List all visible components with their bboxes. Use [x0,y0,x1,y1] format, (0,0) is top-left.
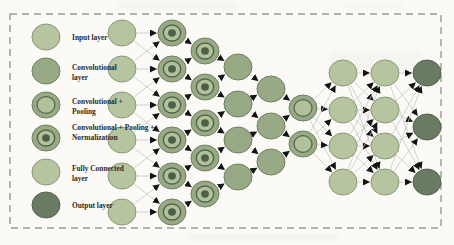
legend-label: layer [72,174,89,183]
connection-line [284,96,290,101]
layer-column-3-conv [224,54,252,190]
legend-label: Input layer [72,33,108,42]
layer-column-6-fc [329,60,357,195]
node-conv_pool_norm [158,127,186,153]
node-conv_pool [289,95,317,121]
normalization-core-icon [168,172,176,179]
node-body [413,114,441,140]
legend-glyph-input [32,24,60,50]
node-fc [329,97,357,123]
legend-item-input: Input layer [32,24,108,50]
node-body [329,97,357,123]
legend-label: Convolutional + [72,97,123,106]
node-conv_pool_norm [191,74,219,100]
node-body [257,76,285,102]
node-fc [371,169,399,195]
node-body [329,60,357,86]
legend-item-conv: Convolutionallayer [32,58,117,84]
layer-column-2-conv_pool_norm [191,38,219,207]
connection-line [314,82,331,99]
node-fc [371,60,399,86]
connection-line [284,133,290,137]
connection-line [185,76,192,81]
legend-glyph-conv_pool [32,92,60,118]
layer-column-1-conv_pool_norm [158,20,186,225]
node-body [329,169,357,195]
node-conv_pool [289,131,317,157]
node-body [224,54,252,80]
normalization-core-icon [201,47,209,54]
connection-line [185,58,192,63]
connection-line [218,165,225,170]
normalization-core-icon [201,190,209,197]
connection-line [250,75,258,81]
connection-line [250,112,258,118]
node-fc [329,60,357,86]
connection-line [218,129,224,133]
legend-glyph-fc [32,159,60,185]
node-body [108,20,136,46]
node-conv [224,164,252,190]
figure-page: Input layerConvolutionallayerConvolution… [0,0,454,245]
node-fc [371,97,399,123]
connection-line [314,119,331,135]
layer-column-4-conv [257,76,285,175]
node-body [371,133,399,159]
node-body [224,127,252,153]
normalization-core-icon [168,101,176,108]
pooling-ring-icon [294,136,312,153]
normalization-core-icon [168,65,176,72]
node-conv [224,54,252,80]
connection-line [250,148,258,154]
node-body [32,192,60,218]
node-conv [224,127,252,153]
node-fc [371,133,399,159]
connection-line [185,129,191,133]
node-conv_pool_norm [191,145,219,171]
connection-line [185,183,192,188]
node-body [32,58,60,84]
connection-line [318,145,328,146]
node-body [224,91,252,117]
node-body [413,169,441,195]
node-body [32,159,60,185]
node-body [371,97,399,123]
legend-item-output: Output layer [32,192,114,218]
node-output [413,60,441,86]
node-conv_pool_norm [158,56,186,82]
legend-item-conv_pool_norm: Convolutional + Pooling +Normalization [32,123,155,151]
connection-line [185,94,192,99]
connection-line [185,112,192,117]
connection-line [252,168,258,171]
node-body [371,60,399,86]
legend-glyph-output [32,192,60,218]
node-body [224,164,252,190]
connection-line [218,74,225,79]
node-output [413,114,441,140]
connection-line [284,115,290,119]
node-conv_pool_norm [191,181,219,207]
node-fc [329,169,357,195]
normalization-core-icon [201,119,209,126]
node-conv_pool_norm [158,199,186,225]
node-conv_pool_norm [158,163,186,189]
network-layers [108,20,441,225]
normalization-core-icon [168,208,176,215]
connection-line [185,165,192,170]
node-conv [224,91,252,117]
normalization-core-icon [201,83,209,90]
node-conv [257,149,285,175]
connection-line [185,201,192,206]
legend-glyph-conv [32,58,60,84]
legend-label: Convolutional [72,63,117,72]
connection-line [185,147,192,152]
layer-column-8-output [413,60,441,195]
pooling-ring-icon [37,97,55,114]
normalization-core-icon [42,134,50,141]
node-fc [329,133,357,159]
connection-line [218,57,224,61]
node-body [413,60,441,86]
node-conv [257,113,285,139]
node-body [371,169,399,195]
connection-line [284,151,290,155]
